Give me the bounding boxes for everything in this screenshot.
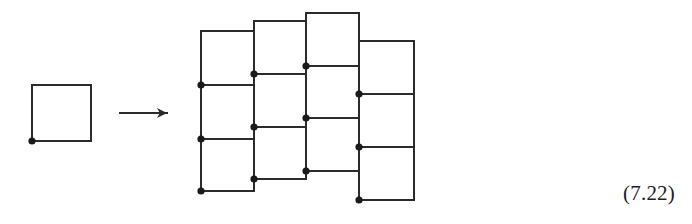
column-1-basepoint-dot <box>197 81 204 88</box>
target-squares-group <box>197 13 414 204</box>
column-1-basepoint-dot <box>197 187 204 194</box>
figure-container: (7.22) <box>0 0 692 224</box>
column-1-basepoint-dot <box>197 135 204 142</box>
equation-number: (7.22) <box>623 183 675 204</box>
column-4-basepoint-dot <box>355 196 362 203</box>
column-3-basepoint-dot <box>302 62 309 69</box>
column-2-basepoint-dot <box>250 175 257 182</box>
column-4-basepoint-dot <box>355 90 362 97</box>
source-basepoint-dot <box>28 137 35 144</box>
column-2-basepoint-dot <box>250 70 257 77</box>
diagram-canvas <box>0 0 692 224</box>
maps-to-arrow <box>120 108 167 118</box>
source-square <box>32 85 91 141</box>
column-3-basepoint-dot <box>302 114 309 121</box>
column-4-basepoint-dot <box>355 143 362 150</box>
column-3-basepoint-dot <box>302 167 309 174</box>
column-2-basepoint-dot <box>250 123 257 130</box>
source-square-group <box>28 85 91 145</box>
